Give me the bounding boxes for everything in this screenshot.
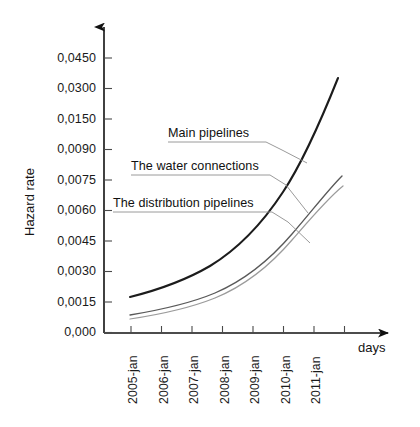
annotation-label-distribution-pipelines: The distribution pipelines [113,196,254,210]
x-tick-label-4: 2009-jan [248,355,262,404]
x-axis-title: days [358,340,385,355]
y-tick-label-6: 0,0090 [22,142,96,156]
y-tick-label-8: 0,0300 [22,81,96,95]
x-tick-label-0: 2005-jan [126,355,140,404]
annotation-label-main-pipelines: Main pipelines [168,126,249,140]
x-tick-label-6: 2011-jan [309,356,323,404]
y-tick-label-4: 0,0060 [22,203,96,217]
y-tick-label-3: 0,0045 [22,234,96,248]
x-tick-label-5: 2010-jan [279,355,293,404]
x-tick-label-2: 2007-jan [187,355,201,404]
y-tick-label-7: 0,0150 [22,112,96,126]
leader-line-main-pipelines [266,142,307,163]
y-tick-label-0: 0,000 [22,325,96,339]
x-axis-ticks [131,326,345,333]
x-tick-label-3: 2008-jan [218,355,232,404]
y-tick-label-5: 0,0075 [22,173,96,187]
y-tick-label-1: 0,0015 [22,295,96,309]
y-tick-label-9: 0,0450 [22,51,96,65]
leader-line-distribution-pipelines [272,212,310,243]
y-axis-ticks [104,58,112,333]
y-tick-label-2: 0,0030 [22,264,96,278]
annotation-label-water-connections: The water connections [131,159,259,173]
series-line-main-pipelines [130,78,338,297]
x-tick-label-1: 2006-jan [157,355,171,404]
hazard-rate-chart-figure: Hazard rate 0,000 0,0015 0,0030 0,0045 0… [0,0,420,427]
